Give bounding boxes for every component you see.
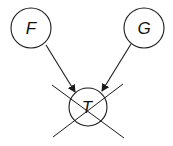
diagram-canvas: F G T: [0, 0, 173, 146]
node-g-label: G: [137, 19, 150, 38]
node-f: F: [11, 8, 51, 48]
graph-svg: F G T: [0, 0, 173, 146]
edge-f-to-t: [46, 45, 75, 92]
edge-g-to-t: [102, 44, 131, 91]
node-g: G: [124, 8, 164, 48]
node-f-label: F: [26, 19, 38, 38]
